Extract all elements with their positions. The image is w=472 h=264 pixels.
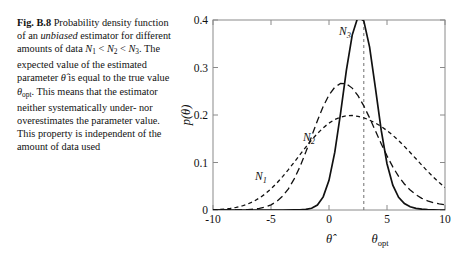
theta-opt-label: θopt [371, 232, 389, 248]
curve-N3 [213, 17, 445, 210]
x-tick-label: -5 [266, 213, 276, 225]
x-tick-label: 0 [326, 213, 332, 225]
svg-text:p(θ): p(θ) [180, 105, 193, 127]
figure-caption: Fig. B.8 Probability density function of… [17, 16, 175, 153]
y-tick-label: 0.2 [194, 109, 209, 121]
y-tick-label: 0.4 [194, 14, 209, 26]
x-tick-label: -10 [205, 213, 221, 225]
curve-label-N3: N3 [338, 25, 351, 40]
x-tick-label: 5 [384, 213, 390, 225]
y-tick-label: 0.1 [194, 157, 209, 169]
theta-hat-label: θ̂ [326, 232, 337, 246]
y-tick-labels: 0 0.1 0.2 0.3 0.4 [194, 14, 209, 216]
y-tick-label: 0.3 [194, 62, 209, 74]
curve-N2 [213, 83, 445, 210]
x-tick-labels: -10 -5 0 5 10 [205, 213, 451, 225]
x-axis-titles: θ̂ θopt [326, 232, 389, 248]
x-tick-label: 10 [439, 213, 451, 225]
figure-label: Fig. B.8 [17, 17, 51, 28]
curve-N1 [213, 116, 445, 210]
chart-plot: 0 0.1 0.2 0.3 0.4 -10 -5 0 5 10 p(θ) θ̂ [180, 2, 472, 264]
curve-label-N1: N1 [254, 170, 267, 185]
caption-emphasis: unbiased [40, 30, 77, 41]
caption-text: Probability density function of an unbia… [17, 17, 171, 152]
figure-container: Fig. B.8 Probability density function of… [0, 0, 472, 264]
y-axis-title: p(θ) [180, 105, 193, 127]
